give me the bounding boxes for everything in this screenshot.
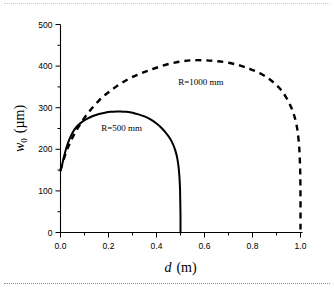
x-tick-label: 0.8 <box>247 241 259 251</box>
series-annotation-r1000: R=1000 mm <box>178 77 223 87</box>
y-axis-title-units: (µm) <box>12 105 28 134</box>
y-tick-label: 200 <box>38 144 52 154</box>
figure-container: 0100200300400500 0.00.20.40.60.81.0 R=50… <box>0 0 334 297</box>
x-tick-label: 0.4 <box>151 241 163 251</box>
chart-plot-area: 0100200300400500 0.00.20.40.60.81.0 R=50… <box>0 0 334 297</box>
y-tick-label: 500 <box>38 20 52 30</box>
series-annotation-r500: R=500 mm <box>101 123 142 133</box>
y-tick-label: 400 <box>38 61 52 71</box>
x-axis-tick-labels: 0.00.20.40.60.81.0 <box>55 241 307 251</box>
y-tick-label: 0 <box>48 228 53 238</box>
y-tick-label: 300 <box>38 103 52 113</box>
x-tick-label: 0.2 <box>103 241 115 251</box>
x-tick-label: 0.6 <box>199 241 211 251</box>
y-axis-title-subscript: 0 <box>19 138 29 143</box>
svg-text:w0(µm): w0(µm) <box>12 105 29 152</box>
y-tick-label: 100 <box>38 186 52 196</box>
x-tick-label: 1.0 <box>295 241 307 251</box>
x-axis-title-units: (m) <box>176 260 197 276</box>
y-axis-ticks <box>56 25 61 233</box>
x-tick-label: 0.0 <box>55 241 67 251</box>
y-axis-tick-labels: 0100200300400500 <box>38 20 52 238</box>
y-axis-title: w0(µm) <box>12 105 29 152</box>
x-axis-title-symbol: d <box>164 260 172 275</box>
x-axis-title: d(m) <box>164 260 197 276</box>
top-separator-rule <box>4 3 330 4</box>
bottom-separator-rule <box>4 283 330 284</box>
